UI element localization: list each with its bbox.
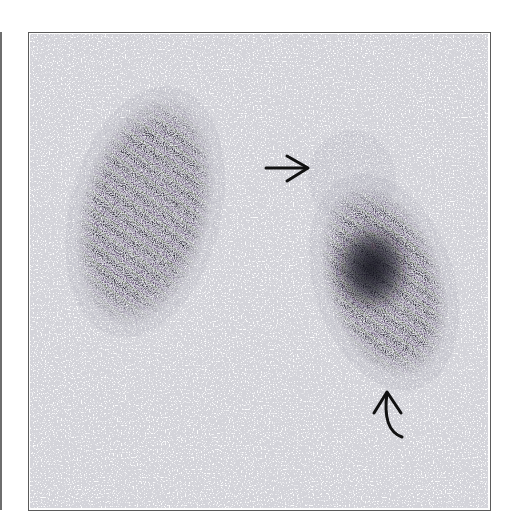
left-kidney bbox=[40, 69, 249, 360]
scan-image bbox=[0, 0, 513, 525]
right-kidney bbox=[283, 154, 485, 410]
